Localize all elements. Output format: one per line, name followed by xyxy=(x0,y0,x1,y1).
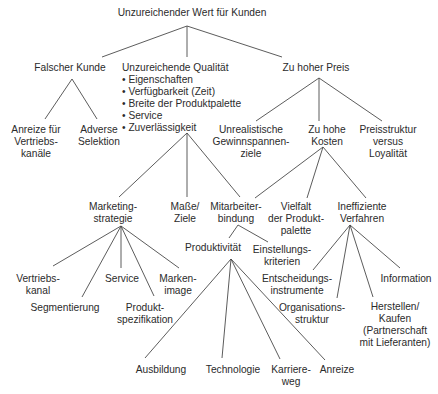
edge-verfahren-to-organisation xyxy=(337,225,350,298)
node-preis: Zu hoher Preis xyxy=(283,62,350,73)
edge-mitarbeiter-to-produktivitaet xyxy=(229,225,238,238)
node-information: Information xyxy=(381,273,432,284)
node-label-line: Vertriebs- xyxy=(14,136,58,147)
issue-tree-diagram: Unzureichender Wert für KundenFalscher K… xyxy=(0,0,438,394)
node-gewinn: UnrealistischeGewinnspannen-ziele xyxy=(212,124,289,159)
node-mitarbeiter: Mitarbeiter-bindung xyxy=(210,201,262,224)
node-label-line: Kosten xyxy=(311,136,343,147)
edge-root-to-preis xyxy=(187,26,282,57)
edge-marketing-to-vertriebskanal xyxy=(53,226,121,266)
node-technologie: Technologie xyxy=(206,364,261,375)
node-label-line: instrumente xyxy=(270,285,324,296)
node-ausbildung: Ausbildung xyxy=(136,364,187,375)
tree-canvas: Unzureichender Wert für KundenFalscher K… xyxy=(0,0,438,394)
edge-verfahren-to-herstellen xyxy=(350,225,373,297)
edge-qualitaet-to-marketing xyxy=(119,133,187,197)
node-anreize: Anreize xyxy=(320,364,355,375)
node-label-line: Segmentierung xyxy=(30,302,99,313)
edge-kosten-to-vielfalt xyxy=(307,147,323,198)
node-label-line: weg xyxy=(281,376,301,387)
node-label-line: Service xyxy=(105,273,139,284)
node-label-line: Ziele xyxy=(174,213,196,224)
node-einstellung: Einstellungs-kriterien xyxy=(253,244,311,267)
node-vertriebskanal: Vertriebs-kanal xyxy=(16,273,60,296)
node-label-line: Mitarbeiter- xyxy=(210,201,262,212)
node-label-line: • Eigenschaften xyxy=(122,74,193,85)
node-label-line: Zu hohe xyxy=(308,124,346,135)
edge-produktivitaet-to-technologie xyxy=(222,259,231,358)
edge-root-to-falscher-kunde xyxy=(102,26,187,57)
edge-kosten-to-mitarbeiter xyxy=(255,147,323,198)
node-label-line: bindung xyxy=(218,213,255,224)
node-label-line: Vertriebs- xyxy=(16,273,60,284)
node-label-line: versus xyxy=(373,136,403,147)
node-label-line: image xyxy=(164,285,192,296)
node-label-line: • Service xyxy=(122,110,163,121)
node-herstellen: Herstellen/Kaufen(Partnerschaftmit Liefe… xyxy=(360,301,431,348)
node-masse: Maße/Ziele xyxy=(171,201,200,224)
node-label-line: Unzureichender Wert für Kunden xyxy=(118,7,267,18)
edge-marketing-to-produktspez xyxy=(121,226,154,296)
node-label-line: struktur xyxy=(295,314,330,325)
node-label-line: palette xyxy=(281,225,312,236)
node-label-line: Verfahren xyxy=(340,213,384,224)
node-label-line: Einstellungs- xyxy=(253,244,311,255)
node-karriere: Karriere-weg xyxy=(271,364,311,387)
node-falscher-kunde: Falscher Kunde xyxy=(34,62,106,73)
node-label-line: Ineffiziente xyxy=(337,201,386,212)
node-label-line: Vielfalt xyxy=(281,201,312,212)
node-label-line: strategie xyxy=(93,213,132,224)
node-label-line: Preisstruktur xyxy=(359,124,417,135)
edge-marketing-to-markenimage xyxy=(121,226,179,268)
edge-verfahren-to-information xyxy=(350,225,400,268)
node-produktspez: Produkt-spezifikation xyxy=(117,302,173,325)
node-label-line: kanal xyxy=(26,285,50,296)
node-label-line: mit Lieferanten) xyxy=(360,337,431,348)
node-label-line: kanäle xyxy=(21,148,51,159)
node-label-line: Unrealistische xyxy=(219,124,283,135)
node-label-line: Anreize xyxy=(320,364,355,375)
node-label-line: Kaufen xyxy=(379,313,411,324)
node-label-line: Selektion xyxy=(78,136,120,147)
node-label-line: Loyalität xyxy=(369,148,407,159)
node-label-line: Technologie xyxy=(206,364,261,375)
node-vielfalt: Vielfaltder Produkt-palette xyxy=(268,201,324,236)
node-label-line: Falscher Kunde xyxy=(34,62,106,73)
node-verfahren: IneffizienteVerfahren xyxy=(337,201,386,224)
node-anreize-vertrieb: Anreize fürVertriebs-kanäle xyxy=(11,124,61,159)
edge-marketing-to-segmentierung xyxy=(82,226,121,297)
node-label-line: Zu hoher Preis xyxy=(283,62,350,73)
node-label-line: (Partnerschaft xyxy=(363,325,427,336)
node-label-line: spezifikation xyxy=(117,314,173,325)
node-preisstruktur: PreisstrukturversusLoyalität xyxy=(359,124,417,159)
node-label-line: der Produkt- xyxy=(268,213,324,224)
edge-verfahren-to-entscheidung xyxy=(313,225,350,270)
node-label-line: Organisations- xyxy=(279,302,345,313)
node-adverse: AdverseSelektion xyxy=(78,124,120,147)
node-label-line: Herstellen/ xyxy=(371,301,420,312)
node-label-line: Marken- xyxy=(159,273,196,284)
node-root: Unzureichender Wert für Kunden xyxy=(118,7,267,18)
node-label-line: • Breite der Produktpalette xyxy=(122,98,241,109)
node-label-line: Gewinnspannen- xyxy=(212,136,289,147)
node-label-line: Information xyxy=(381,273,432,284)
node-label-line: Ausbildung xyxy=(136,364,187,375)
node-segmentierung: Segmentierung xyxy=(30,302,99,313)
node-markenimage: Marken-image xyxy=(159,273,196,296)
node-label-line: Produktivität xyxy=(185,242,241,253)
node-entscheidung: Entscheidungs-instrumente xyxy=(262,273,332,296)
node-label-line: Produkt- xyxy=(126,302,165,313)
edge-mitarbeiter-to-einstellung xyxy=(238,225,268,242)
node-label-line: • Verfügbarkeit (Zeit) xyxy=(122,86,215,97)
node-label-line: kriterien xyxy=(264,256,300,267)
tree-nodes: Unzureichender Wert für KundenFalscher K… xyxy=(11,7,431,387)
node-label-line: Entscheidungs- xyxy=(262,273,332,284)
node-label-line: Karriere- xyxy=(271,364,311,375)
edge-falscher-kunde-to-adverse xyxy=(72,79,97,119)
node-produktivitaet: Produktivität xyxy=(185,242,241,253)
edge-falscher-kunde-to-anreize-vertrieb xyxy=(45,79,72,119)
node-label-line: Marketing- xyxy=(89,201,137,212)
node-label-line: Anreize für xyxy=(11,124,61,135)
node-label-line: ziele xyxy=(241,148,262,159)
node-kosten: Zu hoheKosten xyxy=(308,124,346,147)
